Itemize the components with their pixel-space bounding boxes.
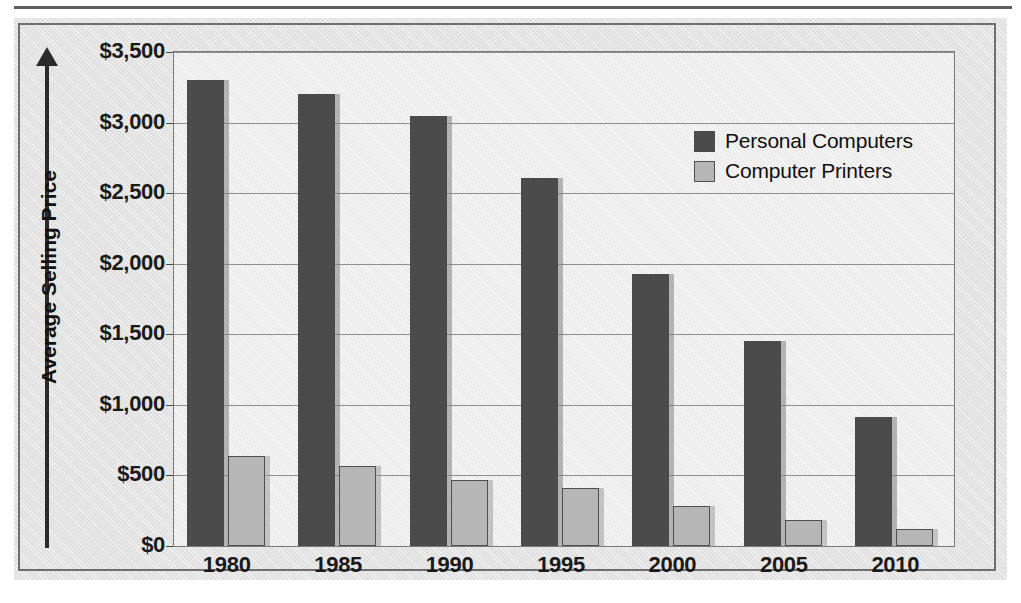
legend-swatch-icon (694, 161, 715, 182)
bar-computer-printers-2000 (673, 506, 710, 546)
bar-personal-computers-1995 (521, 178, 558, 546)
y-axis-tick-mark (166, 264, 173, 265)
x-axis-tick-label-2005: 2005 (760, 552, 808, 578)
x-axis-tick-label-1995: 1995 (537, 552, 585, 578)
bar-personal-computers-1980 (187, 80, 224, 546)
legend-item-2[interactable]: Computer Printers (694, 158, 944, 184)
bar-personal-computers-2010 (855, 417, 892, 546)
x-axis-tick-label-2000: 2000 (649, 552, 697, 578)
gridline (174, 475, 954, 476)
y-axis-tick-label: $1,000 (100, 391, 166, 417)
bar-personal-computers-1985 (298, 94, 335, 546)
x-axis-tick-label-1985: 1985 (314, 552, 362, 578)
chart-legend: Personal ComputersComputer Printers (694, 128, 944, 188)
gridline (174, 193, 954, 194)
x-axis-tick-label-1980: 1980 (203, 552, 251, 578)
y-axis-tick-mark (166, 334, 173, 335)
gridline (174, 334, 954, 335)
gridline (174, 264, 954, 265)
bar-personal-computers-1990 (410, 116, 447, 546)
bar-personal-computers-2005 (744, 341, 781, 546)
gridline (174, 52, 954, 53)
y-axis-tick-label: $1,500 (100, 320, 166, 346)
y-axis-tick-mark (166, 193, 173, 194)
legend-swatch-icon (694, 131, 715, 152)
y-axis-tick-mark (166, 475, 173, 476)
gridline (174, 123, 954, 124)
y-axis-tick-label: $3,500 (100, 38, 166, 64)
x-axis-tick-label-2010: 2010 (871, 552, 919, 578)
y-axis-tick-label: $500 (117, 461, 165, 487)
legend-label: Computer Printers (725, 159, 892, 183)
legend-label: Personal Computers (725, 129, 913, 153)
y-axis-tick-label: $3,000 (100, 109, 166, 135)
y-axis-tick-label: $2,500 (100, 179, 166, 205)
y-axis-tick-labels: $0$500$1,000$1,500$2,000$2,500$3,000$3,5… (18, 51, 165, 547)
bar-computer-printers-2010 (896, 529, 933, 546)
gridline (174, 405, 954, 406)
chart-screenshot: Average Selling Price $0$500$1,000$1,500… (0, 0, 1021, 603)
bar-computer-printers-1985 (339, 466, 376, 546)
y-axis-tick-mark (166, 123, 173, 124)
bar-computer-printers-1980 (228, 456, 265, 546)
bar-computer-printers-2005 (785, 520, 822, 546)
legend-item-1[interactable]: Personal Computers (694, 128, 944, 154)
page-top-rule (14, 6, 1012, 9)
x-axis-tick-labels: 1980198519901995200020052010 (173, 552, 955, 586)
bar-computer-printers-1990 (451, 480, 488, 546)
plot-area (173, 51, 955, 547)
y-axis-tick-label: $2,000 (100, 250, 166, 276)
x-axis-tick-label-1990: 1990 (426, 552, 474, 578)
y-axis-tick-mark (166, 405, 173, 406)
y-axis-tick-mark (166, 52, 173, 53)
y-axis-tick-mark (166, 546, 173, 547)
y-axis-tick-label: $0 (141, 532, 165, 558)
bar-personal-computers-2000 (632, 274, 669, 546)
bar-computer-printers-1995 (562, 488, 599, 546)
